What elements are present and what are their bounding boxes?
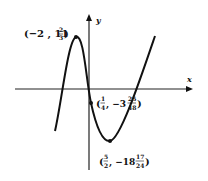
svg-text:17: 17 [136, 153, 144, 160]
svg-text:, −3: , −3 [106, 99, 126, 110]
svg-text:3: 3 [59, 34, 63, 41]
svg-text:48: 48 [128, 104, 136, 111]
svg-text:1: 1 [101, 95, 105, 102]
svg-text:5: 5 [104, 153, 108, 160]
inflection-point [89, 101, 93, 105]
local-max-point [74, 35, 78, 39]
svg-text:): ) [137, 98, 142, 109]
svg-text:, −18: , −18 [109, 157, 135, 168]
x-axis-label: x [186, 74, 192, 84]
inflection-label: ( 1 4 , −3 25 48 ) [96, 95, 142, 111]
svg-text:): ) [64, 28, 69, 39]
svg-text:2: 2 [59, 26, 63, 33]
svg-text:24: 24 [136, 162, 144, 169]
svg-text:): ) [145, 156, 150, 167]
function-graph: x y (−2 , 11 2 3 ) ( 1 4 , −3 25 48 ) ( … [0, 0, 208, 181]
local-min-point [108, 139, 112, 143]
svg-text:4: 4 [101, 104, 105, 111]
y-axis-label: y [95, 15, 102, 25]
svg-text:25: 25 [128, 95, 136, 102]
x-axis-arrow-icon [186, 86, 193, 92]
svg-text:2: 2 [104, 162, 108, 169]
local-min-label: ( 5 2 , −18 17 24 ) [99, 153, 150, 169]
y-axis-arrow-icon [86, 14, 92, 21]
local-max-label: (−2 , 11 2 3 ) [24, 26, 69, 41]
